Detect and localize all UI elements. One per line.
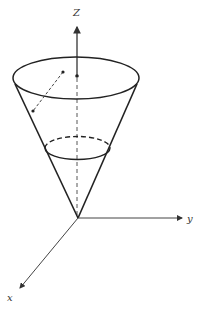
cone-diagram: Z y x [0, 0, 203, 313]
z-axis-label: Z [72, 7, 81, 18]
x-axis [20, 218, 78, 288]
x-axis-label: x [7, 292, 13, 303]
cone-top-rim [13, 57, 139, 99]
center-point [75, 74, 79, 78]
segment-end-top [61, 70, 64, 73]
dashed-segment [33, 72, 63, 111]
cone-right-side [78, 84, 137, 218]
cross-section-back [45, 137, 110, 149]
segment-end-bottom [31, 109, 34, 112]
cross-section-front [45, 148, 110, 160]
y-axis-label: y [186, 213, 193, 224]
diagram-canvas: Z y x [0, 0, 203, 313]
